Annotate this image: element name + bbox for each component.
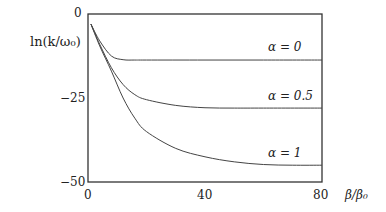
x-tick-80: 80 (313, 188, 328, 202)
x-tick-0: 0 (84, 188, 92, 202)
y-tick-minus25: −25 (60, 91, 85, 105)
y-axis-label: ln(k/ω₀) (30, 34, 81, 49)
x-tick-40: 40 (197, 188, 212, 202)
y-tick-minus50: −50 (60, 175, 85, 189)
series-label-alpha-1: α = 1 (268, 146, 301, 160)
series-label-alpha-0-5: α = 0.5 (268, 89, 313, 103)
series-label-alpha-0: α = 0 (268, 40, 301, 54)
x-axis-label: β/β₀ (345, 188, 368, 202)
plot-canvas (0, 0, 386, 212)
y-tick-0: 0 (74, 6, 82, 20)
